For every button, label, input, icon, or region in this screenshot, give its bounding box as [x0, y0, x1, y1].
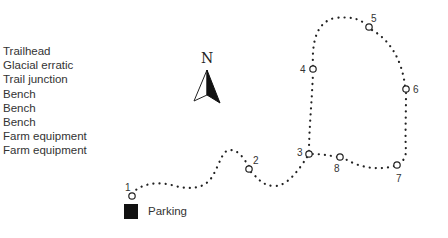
waypoints — [129, 24, 409, 199]
waypoint-4[interactable] — [310, 66, 316, 72]
waypoint-label-5: 5 — [371, 13, 377, 24]
north-arrow-icon: N — [194, 50, 220, 103]
north-label: N — [201, 50, 213, 66]
waypoint-1[interactable] — [129, 193, 135, 199]
waypoint-label-6: 6 — [413, 84, 419, 95]
waypoint-label-4: 4 — [300, 64, 306, 75]
waypoint-label-1: 1 — [125, 182, 131, 193]
waypoint-7[interactable] — [394, 162, 400, 168]
waypoint-6[interactable] — [403, 86, 409, 92]
waypoint-5[interactable] — [366, 24, 372, 30]
waypoint-label-2: 2 — [253, 155, 259, 166]
waypoint-label-3: 3 — [297, 147, 303, 158]
waypoint-2[interactable] — [246, 166, 252, 172]
waypoint-label-7: 7 — [396, 173, 402, 184]
waypoint-8[interactable] — [337, 154, 343, 160]
parking-square-icon — [124, 204, 138, 219]
waypoint-label-8: 8 — [334, 163, 340, 174]
trail-path — [132, 17, 406, 194]
trail-map: N 1 2 3 4 5 6 7 8 — [0, 0, 448, 238]
waypoint-3[interactable] — [306, 151, 312, 157]
waypoint-labels: 1 2 3 4 5 6 7 8 — [125, 13, 419, 193]
parking-label: Parking — [148, 205, 187, 217]
